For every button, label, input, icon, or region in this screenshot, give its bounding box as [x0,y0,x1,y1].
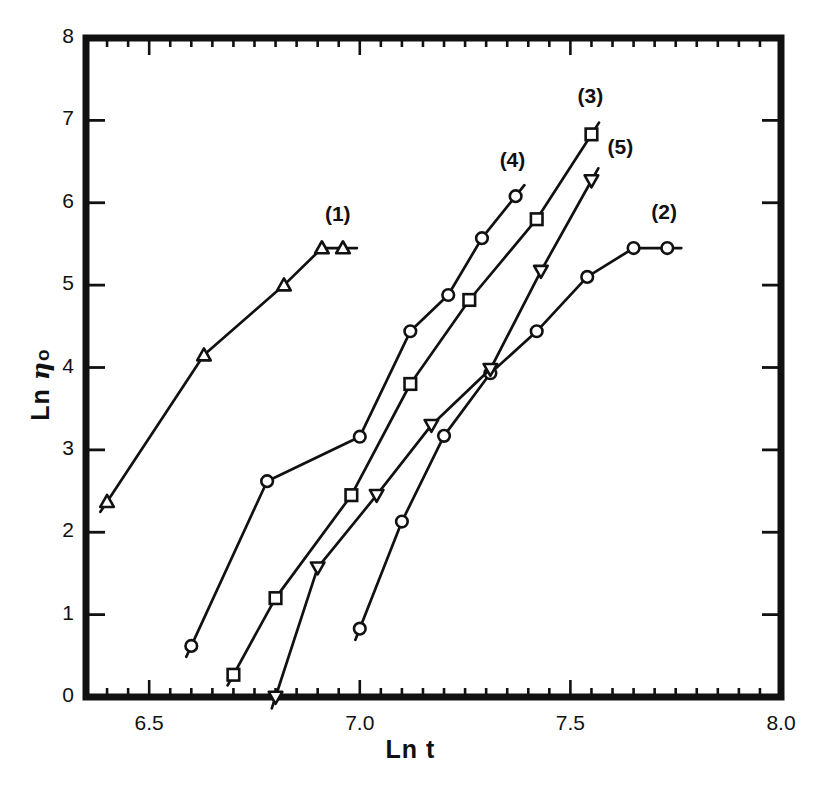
chart-plot [0,0,821,791]
y-tick-label: 2 [40,518,74,542]
curve-label-3: (3) [577,84,603,108]
y-tick-label: 3 [40,436,74,460]
x-axis-label: Ln t [0,735,821,764]
x-tick-label: 6.5 [125,711,173,735]
data-series [186,185,525,657]
curve-label-1: (1) [325,202,351,226]
axis-ticks [86,38,781,697]
y-tick-label: 0 [40,683,74,707]
data-series [100,241,357,512]
x-tick-label: 7.5 [546,711,594,735]
y-tick-label: 8 [40,24,74,48]
x-tick-label: 8.0 [757,711,805,735]
data-series-group [100,123,681,709]
curve-label-4: (4) [500,148,526,172]
y-axis-label-prefix: Ln [26,380,54,421]
curve-label-5: (5) [607,135,633,159]
y-tick-label: 7 [40,106,74,130]
y-tick-label: 1 [40,601,74,625]
x-tick-label: 7.0 [336,711,384,735]
curve-label-2: (2) [651,200,677,224]
figure-panel: Ln t Ln ηo 6.57.07.58.0012345678 (1) (2)… [0,0,821,791]
y-tick-label: 4 [40,354,74,378]
data-series [354,242,681,640]
y-tick-label: 5 [40,271,74,295]
data-series [228,123,599,686]
axis-frame [86,38,781,697]
y-tick-label: 6 [40,189,74,213]
